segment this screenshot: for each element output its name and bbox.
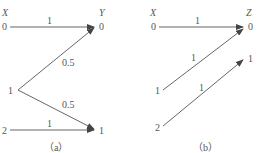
prob-0-0: 1 [47, 15, 52, 26]
prob-2-1: 1 [47, 118, 52, 129]
channel-diagrams: X Y 0 1 2 0 1 1 0.5 0.5 1 （a） X Z 0 1 2 … [0, 0, 257, 153]
output-1: 1 [99, 125, 104, 136]
input-label-x: X [1, 7, 9, 18]
input-1: 1 [8, 85, 13, 96]
input-0: 0 [151, 21, 156, 32]
output-0: 0 [248, 21, 253, 32]
edge-1-0 [163, 29, 243, 90]
prob-1-1: 0.5 [62, 99, 75, 110]
prob-2-1: 1 [199, 82, 204, 93]
output-1: 1 [248, 53, 253, 64]
input-label-x: X [149, 7, 157, 18]
input-0: 0 [2, 21, 7, 32]
input-1: 1 [155, 85, 160, 96]
caption-a: （a） [44, 142, 68, 153]
edge-2-1 [163, 60, 243, 126]
diagram-b: X Z 0 1 2 0 1 1 1 1 （b） [149, 7, 253, 153]
diagram-a: X Y 0 1 2 0 1 1 0.5 0.5 1 （a） [1, 7, 106, 153]
prob-1-0: 1 [191, 52, 196, 63]
input-2: 2 [155, 122, 160, 133]
output-label-y: Y [99, 7, 106, 18]
prob-0-0: 1 [195, 15, 200, 26]
edge-1-1 [18, 90, 94, 129]
caption-b: （b） [193, 142, 218, 153]
prob-1-0: 0.5 [62, 57, 75, 68]
input-2: 2 [2, 125, 7, 136]
output-label-z: Z [246, 7, 252, 18]
output-0: 0 [99, 21, 104, 32]
edge-1-0 [18, 28, 94, 90]
